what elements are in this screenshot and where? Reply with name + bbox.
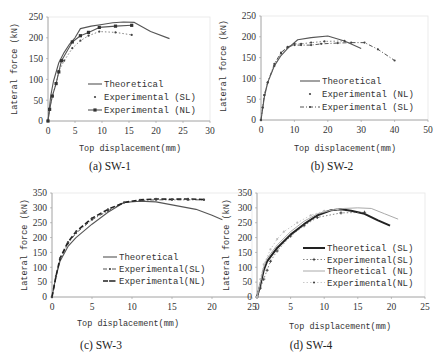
y-tick-label: 100 xyxy=(242,74,257,84)
legend-label: Theoretical (NL) xyxy=(327,267,413,277)
y-tick-label: 300 xyxy=(238,203,253,213)
marker-dot xyxy=(310,42,312,44)
marker-dot xyxy=(91,217,93,219)
marker-dot xyxy=(123,201,125,203)
marker-dot xyxy=(310,44,312,46)
x-tick-label: 25 xyxy=(420,302,430,312)
marker-dot xyxy=(350,42,352,44)
marker-dot xyxy=(320,43,322,45)
marker-dot xyxy=(337,208,339,210)
marker-square xyxy=(57,70,60,73)
x-tick-label: 10 xyxy=(127,302,137,312)
x-tick-label: 40 xyxy=(390,125,400,135)
marker-square xyxy=(48,108,51,111)
marker-square xyxy=(130,24,133,27)
y-tick-label: 200 xyxy=(242,32,257,42)
marker-dot xyxy=(139,199,141,201)
chart-caption: (c) SW-3 xyxy=(80,339,122,352)
marker-dot xyxy=(310,214,312,216)
marker-dot xyxy=(259,278,261,280)
legend-item: Experimental (SL) xyxy=(88,93,196,103)
y-axis-label: Lateral force (kN) xyxy=(10,23,20,115)
marker-dot xyxy=(343,40,345,42)
legend-label: Experimental (NL) xyxy=(104,106,196,116)
y-axis-label: Lateral force (kN) xyxy=(219,20,229,112)
marker-dot xyxy=(273,63,275,65)
legend-item: Theoretical xyxy=(103,253,178,263)
marker-dot xyxy=(107,208,109,210)
marker-square xyxy=(114,25,117,28)
y-tick-label: 250 xyxy=(33,218,48,228)
y-tick-label: 0 xyxy=(42,292,47,302)
marker-dot xyxy=(267,81,269,83)
x-tick-label: 5 xyxy=(288,302,293,312)
legend-label: Experimental(SL) xyxy=(327,256,413,266)
legend-label: Theoretical xyxy=(104,80,163,90)
legend-item: Experimental (SL) xyxy=(300,103,414,113)
y-tick-label: 50 xyxy=(38,277,48,287)
legend-item: Theoretical (SL) xyxy=(303,244,413,254)
marker-dot xyxy=(394,59,396,61)
marker-dot xyxy=(203,198,205,200)
marker-dot xyxy=(131,34,133,36)
marker-dot xyxy=(293,44,295,46)
marker-dot xyxy=(262,106,264,108)
y-tick-label: 250 xyxy=(242,11,257,21)
legend-item: Theoretical xyxy=(300,77,381,87)
marker-dot xyxy=(155,198,157,200)
x-tick-label: 0 xyxy=(46,126,51,136)
marker-dot xyxy=(323,40,325,42)
marker-dot xyxy=(98,30,100,32)
marker-dot xyxy=(87,35,89,37)
y-axis-label: Lateral force (kN) xyxy=(20,199,30,291)
marker-square xyxy=(55,82,58,85)
x-tick-label: 15 xyxy=(167,302,177,312)
y-tick-label: 100 xyxy=(33,263,48,273)
x-axis-label: Top displacement(mm) xyxy=(294,144,396,154)
marker-dot xyxy=(59,257,61,259)
marker-dot xyxy=(79,40,81,42)
marker-dot xyxy=(287,46,289,48)
legend-label: Experimental (NL) xyxy=(322,90,414,100)
marker-square xyxy=(98,26,101,29)
y-tick-label: 250 xyxy=(29,12,44,22)
x-tick-label: 20 xyxy=(387,302,397,312)
marker-square xyxy=(46,119,49,122)
marker-dot xyxy=(256,296,258,298)
y-tick-label: 100 xyxy=(238,263,253,273)
x-tick-label: 20 xyxy=(207,302,217,312)
figure-canvas: 051015202530050100150200250Top displacem… xyxy=(0,0,442,354)
marker-dot xyxy=(71,47,73,49)
legend-item: Experimental (NL) xyxy=(88,106,196,116)
marker-dot xyxy=(263,94,265,96)
x-tick-label: 5 xyxy=(73,126,78,136)
y-axis-label: Lateral force (kN) xyxy=(222,199,232,291)
chart-panel-a: 051015202530050100150200250Top displacem… xyxy=(10,12,215,173)
marker-dot xyxy=(269,248,271,250)
y-tick-label: 350 xyxy=(33,188,48,198)
legend-label: Experimental (SL) xyxy=(322,103,414,113)
legend-item: Experimental(SL) xyxy=(303,256,413,266)
marker-square xyxy=(79,34,82,37)
x-tick-label: 15 xyxy=(353,302,363,312)
marker-square xyxy=(71,40,74,43)
x-tick-label: 20 xyxy=(323,125,333,135)
y-tick-label: 150 xyxy=(33,248,48,258)
x-axis-label: Top displacement(mm) xyxy=(289,322,391,332)
legend-label: Experimental(NL) xyxy=(119,277,205,287)
y-tick-label: 150 xyxy=(242,53,257,63)
x-tick-label: 5 xyxy=(90,302,95,312)
legend-label: Experimental(SL) xyxy=(119,265,205,275)
marker-dot xyxy=(276,238,278,240)
y-tick-label: 50 xyxy=(243,277,253,287)
x-tick-label: 25 xyxy=(178,126,188,136)
marker-dot xyxy=(283,231,285,233)
chart-caption: (d) SW-4 xyxy=(290,339,333,352)
legend-item: Theoretical xyxy=(88,80,163,90)
marker-dot xyxy=(263,263,265,265)
x-tick-label: 15 xyxy=(124,126,134,136)
marker-square xyxy=(60,59,63,62)
legend-item: Experimental (NL) xyxy=(300,90,414,100)
marker-dot xyxy=(296,222,298,224)
y-tick-label: 200 xyxy=(238,233,253,243)
